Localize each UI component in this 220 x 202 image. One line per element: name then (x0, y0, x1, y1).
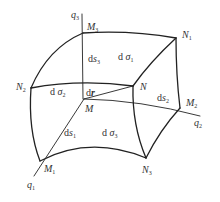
dsigma2-label: d σ2 (50, 87, 65, 98)
point-M2-label: M2 (186, 98, 197, 109)
edge-N1-M2 (176, 38, 180, 108)
ds1-label: ds1 (64, 128, 76, 139)
ds3-label: ds3 (88, 54, 100, 65)
point-N3-label: N3 (142, 165, 152, 176)
point-M-label: M (85, 104, 93, 114)
edge-M3-N2 (31, 33, 83, 88)
point-M1-label: M1 (44, 164, 55, 175)
ds2-label: ds2 (157, 93, 169, 104)
q2-axis-label: q2 (194, 118, 202, 129)
q1-axis-label: q1 (27, 180, 35, 191)
point-N1-label: N1 (182, 30, 192, 41)
q3-axis (82, 14, 83, 99)
edge-M2-N3 (146, 108, 180, 158)
dsigma1-label: d σ1 (118, 52, 133, 63)
point-N-label: N (140, 82, 147, 92)
dsigma3-label: d σ3 (102, 128, 117, 139)
point-N2-label: N2 (16, 82, 26, 93)
dr-label: dr (86, 88, 95, 98)
q1-axis (34, 99, 84, 176)
edge-M3-N1 (83, 32, 176, 38)
edge-N1-N (133, 38, 176, 86)
edge-N-N3 (133, 86, 146, 158)
edge-N2-N (31, 83, 133, 88)
point-M3-label: M3 (87, 22, 98, 33)
q2-axis (84, 99, 200, 116)
edge-N2-M1 (30, 88, 40, 161)
edge-M1-N3 (40, 147, 146, 161)
q3-axis-label: q3 (71, 10, 79, 21)
